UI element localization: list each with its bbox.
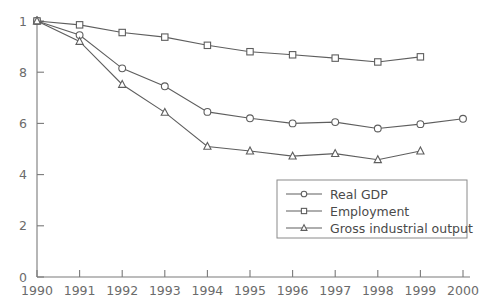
x-tick-label: 1992 — [106, 283, 138, 298]
y-tick-label: 6 — [19, 116, 27, 131]
y-axis-ticks: 024681 — [19, 14, 44, 285]
x-tick-label: 1999 — [404, 283, 436, 298]
data-point-circle — [332, 119, 339, 126]
chart-legend: Real GDPEmploymentGross industrial outpu… — [277, 180, 473, 238]
x-tick-label: 1996 — [277, 283, 309, 298]
series-path — [37, 21, 420, 160]
y-tick-label: 1 — [19, 14, 27, 29]
data-point-square — [162, 34, 168, 40]
x-tick-label: 1995 — [234, 283, 266, 298]
data-point-circle — [289, 120, 296, 127]
data-point-square — [204, 42, 210, 48]
series-gross-industrial-output — [33, 17, 424, 163]
x-tick-label: 1994 — [191, 283, 223, 298]
data-point-square — [375, 59, 381, 65]
x-tick-label: 2000 — [447, 283, 479, 298]
y-tick-label: 4 — [19, 167, 27, 182]
data-point-triangle — [204, 142, 211, 149]
x-tick-label: 1998 — [362, 283, 394, 298]
data-point-square — [332, 55, 338, 61]
data-point-circle — [374, 125, 381, 132]
data-point-triangle — [417, 147, 424, 154]
data-point-circle — [204, 108, 211, 115]
data-point-triangle — [332, 150, 339, 157]
data-point-circle — [247, 115, 254, 122]
x-tick-label: 1993 — [149, 283, 181, 298]
series-group — [33, 17, 466, 163]
data-point-square — [289, 52, 295, 58]
line-chart: 024681 199019911992199319941995199619971… — [0, 0, 487, 304]
data-point-circle — [161, 83, 168, 90]
data-point-triangle — [76, 37, 83, 44]
series-employment — [34, 18, 424, 65]
data-point-square — [76, 22, 82, 28]
chart-canvas: 024681 199019911992199319941995199619971… — [0, 0, 487, 304]
data-point-circle — [417, 121, 424, 128]
data-point-triangle — [161, 108, 168, 115]
data-point-square — [119, 29, 125, 35]
data-point-circle — [119, 65, 126, 72]
x-tick-label: 1990 — [21, 283, 53, 298]
x-tick-label: 1991 — [64, 283, 96, 298]
data-point-square — [247, 49, 253, 55]
legend-item-label: Employment — [330, 204, 409, 219]
legend-item-label: Real GDP — [330, 187, 388, 202]
data-point-circle — [301, 191, 307, 197]
x-axis-ticks: 1990199119921993199419951996199719981999… — [21, 270, 479, 298]
y-tick-label: 2 — [19, 218, 27, 233]
series-path — [37, 21, 463, 129]
y-tick-label: 8 — [19, 65, 27, 80]
series-real-gdp — [34, 18, 467, 132]
legend-item-label: Gross industrial output — [330, 221, 473, 236]
data-point-square — [301, 208, 306, 213]
x-tick-label: 1997 — [319, 283, 351, 298]
data-point-circle — [460, 115, 467, 122]
data-point-square — [417, 54, 423, 60]
